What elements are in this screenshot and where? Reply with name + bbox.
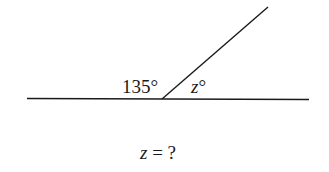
- angle-z-label: z°: [191, 77, 206, 96]
- horizontal-line: [27, 99, 309, 100]
- question-equals: = ?: [147, 142, 176, 163]
- ray-line: [162, 7, 268, 99]
- angle-135-label: 135°: [122, 77, 158, 96]
- question-text: z = ?: [140, 143, 176, 162]
- degree-symbol: °: [198, 76, 206, 97]
